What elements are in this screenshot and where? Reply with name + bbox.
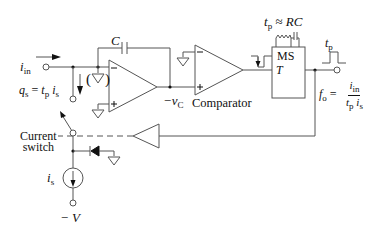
comparator-label: Comparator xyxy=(192,97,252,110)
output-pulse-icon xyxy=(322,52,346,63)
junction-node xyxy=(168,85,171,88)
supply-label: − V xyxy=(60,211,80,224)
supply-terminal xyxy=(70,200,76,206)
integrator-output-label: −vC xyxy=(163,94,184,110)
ground-icon xyxy=(108,157,120,165)
pulse-width-label: tp ≈ RC xyxy=(264,15,302,31)
rc-timing-icon xyxy=(276,32,299,47)
ground-icon xyxy=(92,110,104,118)
trigger-label: T xyxy=(276,64,283,76)
feedback-buffer-icon xyxy=(133,124,159,148)
capacitor-label: C xyxy=(111,34,120,47)
switch-terminal xyxy=(70,130,76,136)
source-current-label: is xyxy=(47,171,54,187)
output-pulse-label: tp xyxy=(325,37,333,52)
output-terminal xyxy=(334,67,340,73)
current-switch-icon xyxy=(60,111,72,131)
monostable-label: MS xyxy=(277,50,294,62)
circuit-schematic xyxy=(0,0,374,239)
capacitor-icon xyxy=(122,42,127,54)
ground-icon xyxy=(177,58,189,66)
input-terminal xyxy=(43,64,49,70)
input-current-label: iin xyxy=(20,60,31,76)
input-current-arrow-icon xyxy=(36,54,61,60)
charge-current-arrow-icon xyxy=(77,74,83,95)
virtual-ground-label: () xyxy=(86,72,112,87)
trigger-edge-icon xyxy=(251,56,272,67)
charge-terminal xyxy=(70,96,76,102)
diode-icon xyxy=(90,146,99,156)
current-switch-label: Current switch xyxy=(20,131,57,153)
charge-equation-label: qs = tp is xyxy=(19,84,59,99)
